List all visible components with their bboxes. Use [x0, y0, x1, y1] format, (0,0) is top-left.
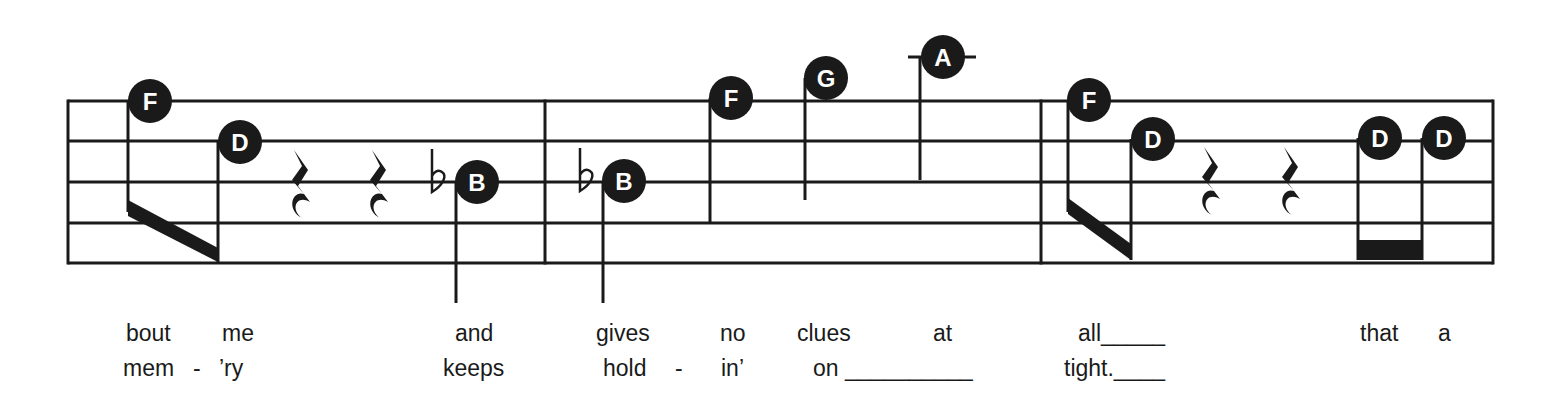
- beams: [128, 198, 1422, 262]
- note-d: D: [1422, 116, 1466, 260]
- beam: [1358, 240, 1422, 260]
- note-f: F: [128, 79, 172, 212]
- staff-lines: [68, 101, 1493, 263]
- lyric-word: no: [720, 322, 746, 345]
- note-letter: D: [1144, 126, 1161, 153]
- note-letter: A: [934, 44, 951, 71]
- lyric-word: all_____: [1078, 322, 1165, 345]
- note-d: D: [218, 120, 262, 262]
- lyric-word: at: [933, 322, 952, 345]
- note-letter: G: [817, 65, 836, 92]
- note-letter: D: [1371, 125, 1388, 152]
- flat-icon: [580, 148, 592, 191]
- flat-icon: [432, 149, 444, 192]
- note-letter: D: [1435, 125, 1452, 152]
- note-letter: F: [1082, 87, 1097, 114]
- note-letter: F: [724, 85, 739, 112]
- lyric-word: in’: [721, 357, 744, 380]
- note-b: B: [580, 148, 646, 303]
- note-b: B: [432, 149, 499, 303]
- note-letter: B: [615, 168, 632, 195]
- note-d: D: [1358, 116, 1402, 260]
- note-a: A: [908, 35, 976, 180]
- lyric-word: mem: [123, 357, 174, 380]
- beam: [1068, 198, 1131, 260]
- quarter-rest-icon: [292, 150, 310, 218]
- lyric-word: hold: [603, 357, 646, 380]
- note-d: D: [1131, 117, 1175, 260]
- lyric-word: gives: [596, 322, 650, 345]
- lyric-word: that: [1360, 322, 1398, 345]
- lyric-word: a: [1438, 322, 1451, 345]
- beam: [128, 200, 218, 262]
- note-letter: D: [231, 129, 248, 156]
- lyric-word: clues: [797, 322, 851, 345]
- lyric-word: me: [222, 322, 254, 345]
- lyric-word: and: [455, 322, 493, 345]
- lyric-word: keeps: [443, 357, 504, 380]
- quarter-rest-icon: [370, 150, 388, 218]
- note-letter: F: [143, 88, 158, 115]
- lyric-word: tight.____: [1064, 357, 1165, 380]
- note-f: F: [1067, 78, 1111, 212]
- lyric-word: on __________: [813, 357, 973, 380]
- lyric-word: -: [675, 357, 683, 380]
- note-f: F: [709, 76, 753, 222]
- lyric-word: bout: [126, 322, 171, 345]
- lyric-word: ’ry: [219, 357, 243, 380]
- lyric-word: -: [193, 357, 201, 380]
- note-g: G: [804, 56, 848, 200]
- note-letter: B: [468, 169, 485, 196]
